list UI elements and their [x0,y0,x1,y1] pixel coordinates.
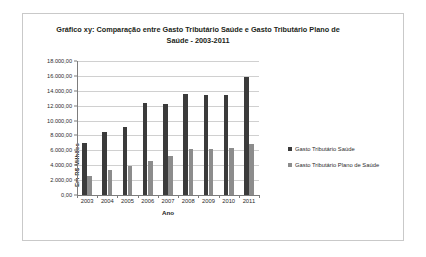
legend-swatch-icon [288,147,292,151]
bar-group [158,61,178,195]
y-axis-tick-label: 2.000,00 [23,177,72,183]
y-axis-tick-label: 8.000,00 [23,132,72,138]
x-axis-tick-mark [178,195,179,198]
bar [189,149,194,195]
chart-title-line-1: Gráfico xy: Comparação entre Gasto Tribu… [56,25,329,34]
y-axis-tick-label: 4.000,00 [23,162,72,168]
chart-legend: Gasto Tributário SaúdeGasto Tributário P… [288,146,408,178]
bar [82,143,87,195]
x-axis-tick-mark [97,195,98,198]
x-axis-tick-mark [117,195,118,198]
legend-item[interactable]: Gasto Tributário Plano de Saúde [288,162,408,169]
y-axis-tick-label: 16.000,00 [23,73,72,79]
y-axis-tick-label: 10.000,00 [23,118,72,124]
bar-group [178,61,198,195]
bar [163,104,168,195]
x-axis-tick-label: 2011 [237,198,261,204]
bar [143,103,148,195]
bar-group [97,61,117,195]
bar-group [219,61,239,195]
bar-group [138,61,158,195]
x-axis-tick-mark [158,195,159,198]
bar [224,95,229,195]
x-axis-title: Ano [77,209,259,216]
y-axis-tick-label: 18.000,00 [23,58,72,64]
bar [102,132,107,195]
x-axis-tick-mark [219,195,220,198]
x-axis-tick-mark [77,195,78,198]
x-axis-line [77,195,259,196]
bar [168,156,173,195]
x-axis-tick-mark [239,195,240,198]
bar [87,176,92,195]
x-axis-tick-mark [259,195,260,198]
bar [183,94,188,195]
bar [148,161,153,195]
bar-group [77,61,97,195]
y-axis-tick-label: 12.000,00 [23,103,72,109]
chart-title: Gráfico xy: Comparação entre Gasto Tribu… [53,24,343,46]
y-axis-tick-label: 0,00 [23,192,72,198]
bar [249,144,254,195]
y-axis-tick-label: 6.000,00 [23,147,72,153]
plot-area [77,61,259,195]
legend-label: Gasto Tributário Plano de Saúde [295,162,379,169]
legend-swatch-icon [288,163,292,167]
chart-container: Gráfico xy: Comparação entre Gasto Tribu… [22,13,404,241]
bar [123,127,128,195]
bar-group [239,61,259,195]
bar [108,170,113,195]
y-axis-tick-label: 14.000,00 [23,88,72,94]
x-axis-tick-mark [198,195,199,198]
bar [229,148,234,195]
bar [209,149,214,195]
x-axis-tick-mark [138,195,139,198]
bar [204,95,209,196]
bar [128,166,133,195]
legend-item[interactable]: Gasto Tributário Saúde [288,146,408,153]
bar-group [198,61,218,195]
bar [244,77,249,195]
bar-group [117,61,137,195]
legend-label: Gasto Tributário Saúde [295,146,355,153]
